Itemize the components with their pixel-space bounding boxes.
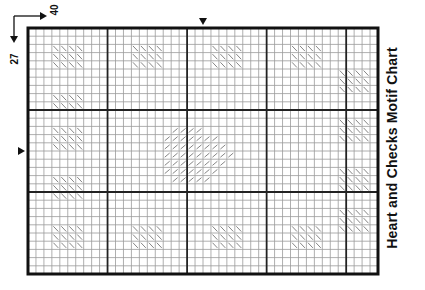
hatch-stitch [364,218,369,223]
hatch-stitch [53,235,58,240]
hatch-stitch [292,46,297,51]
heart-stitch [212,153,217,157]
hatch-stitch [77,46,82,51]
hatch-stitch [149,46,154,51]
hatch-stitch [348,71,353,76]
hatch-stitch [53,95,58,100]
heart-stitch [181,169,186,173]
hatch-stitch [316,226,321,231]
hatch-stitch [228,243,233,248]
hatch-stitch [300,54,305,59]
hatch-stitch [212,62,217,67]
hatch-stitch [141,235,146,240]
chart-title: Heart and Checks Motif Chart [384,47,400,249]
hatch-stitch [356,71,361,76]
hatch-stitch [364,136,369,141]
hatch-stitch [308,46,313,51]
hatch-stitch [340,79,345,84]
hatch-stitch [133,54,138,59]
heart-stitch [212,137,217,141]
hatch-stitch [69,235,74,240]
hatch-stitch [340,177,345,182]
hatch-stitch [133,46,138,51]
hatch-stitch [61,226,66,231]
hatch-stitch [292,226,297,231]
hatch-stitch [364,128,369,133]
chart-grid [0,0,425,290]
hatch-stitch [53,144,58,149]
hatch-stitch [61,136,66,141]
hatch-stitch [364,79,369,84]
hatch-stitch [141,243,146,248]
hatch-stitch [348,79,353,84]
hatch-stitch [141,62,146,67]
heart-stitch [197,161,202,165]
hatch-stitch [77,185,82,190]
heart-stitch [181,128,186,132]
hatch-stitch [69,46,74,51]
hatch-stitch [133,243,138,248]
hatch-stitch [316,243,321,248]
hatch-stitch [364,177,369,182]
hatch-stitch [316,235,321,240]
hatch-stitch [356,185,361,190]
hatch-stitch [69,243,74,248]
hatch-stitch [69,226,74,231]
hatch-stitch [316,54,321,59]
hatch-stitch [141,46,146,51]
hatch-stitch [356,226,361,231]
hatch-stitch [364,226,369,231]
hatch-stitch [69,128,74,133]
hatch-stitch [61,185,66,190]
hatch-stitch [220,243,225,248]
hatch-stitch [141,54,146,59]
hatch-stitch [220,235,225,240]
hatch-stitch [53,54,58,59]
hatch-stitch [53,46,58,51]
hatch-stitch [69,62,74,67]
hatch-stitch [61,95,66,100]
width-count-label: 40 [49,4,60,15]
hatch-stitch [364,120,369,125]
hatch-stitch [77,54,82,59]
hatch-stitch [149,235,154,240]
hatch-stitch [236,243,241,248]
center-marker-top-icon [199,18,207,25]
hatch-stitch [212,226,217,231]
hatch-stitch [356,169,361,174]
hatch-stitch [300,235,305,240]
hatch-stitch [157,226,162,231]
hatch-stitch [300,226,305,231]
hatch-stitch [77,194,82,199]
hatch-stitch [77,103,82,108]
heart-stitch [189,161,194,165]
hatch-stitch [300,46,305,51]
heart-stitch [165,169,170,173]
hatch-stitch [212,54,217,59]
hatch-stitch [133,226,138,231]
hatch-stitch [340,226,345,231]
hatch-stitch [149,226,154,231]
heart-stitch [197,137,202,141]
heart-stitch [173,145,178,149]
heart-stitch [205,161,210,165]
hatch-stitch [157,62,162,67]
hatch-stitch [77,243,82,248]
hatch-stitch [69,194,74,199]
hatch-stitch [69,136,74,141]
hatch-stitch [340,218,345,223]
hatch-stitch [348,210,353,215]
hatch-stitch [356,177,361,182]
hatch-stitch [61,54,66,59]
center-marker-left-icon [18,147,25,155]
hatch-stitch [220,46,225,51]
hatch-stitch [228,62,233,67]
hatch-stitch [308,235,313,240]
heart-stitch [181,153,186,157]
heart-stitch [220,161,225,165]
heart-stitch [197,178,202,182]
hatch-stitch [340,185,345,190]
heart-stitch [189,169,194,173]
hatch-stitch [364,210,369,215]
heart-stitch [173,161,178,165]
